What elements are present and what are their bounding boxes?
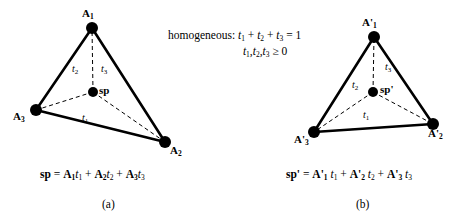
equation-b-vector-2: A'2 [350,168,365,180]
equation-a-vector-2: A2 [94,168,106,180]
constraint-inequality-symbol: ≥ [272,45,278,57]
equation-a-equals: = [54,168,61,180]
constraint-prefix: homogeneous: [168,29,235,41]
equation-b-vector-3: A'3 [387,168,402,180]
equation-a-plus-1: + [85,168,92,180]
parameter-label-t3-b: t3 [385,62,391,74]
dashed-line-sp-prime-to-a1-prime [373,37,374,92]
vertex-label-a2-prime: A'2 [428,128,443,141]
equation-b-scalar-2: t2 [368,168,375,180]
dashed-line-sp-to-a2 [93,92,165,142]
dashed-line-sp-to-a1 [92,28,93,92]
equation-a-lhs: sp [40,168,51,180]
panel-b-geometry [308,31,439,138]
equation-b-plus-2: + [378,168,385,180]
homogeneous-constraint: homogeneous: t1 + t2 + t3 = 1 t1,t2,t3 ≥… [168,28,301,60]
vertex-dot-a3 [30,104,42,116]
vertex-label-a1-prime: A'1 [362,17,377,30]
equation-b-vector-1: A'1 [312,168,327,180]
point-dot-sp-prime [368,87,378,97]
constraint-plus-1: + [248,29,255,41]
equation-a-vector-3: A3 [126,168,138,180]
equation-b-scalar-3: t3 [405,168,412,180]
constraint-term-2: t2 [257,29,264,41]
point-label-sp-prime: sp' [380,84,393,95]
parameter-label-t1-a: t1 [82,113,88,125]
vertex-label-a3: A3 [13,111,25,124]
equation-b-scalar-1: t1 [330,168,337,180]
vertex-dot-a1 [86,22,98,34]
equation-a-vector-1: A1 [63,168,75,180]
equation-b-lhs: sp' [286,168,300,180]
constraint-ineq-term-1: t1 [243,45,250,57]
dashed-line-sp-prime-to-a2-prime [373,92,433,124]
parameter-label-t1-b: t1 [363,110,369,122]
constraint-term-3: t3 [276,29,283,41]
vertex-dot-a1-prime [368,31,380,43]
equation-a-scalar-2: t2 [106,168,113,180]
equation-sp-prime: sp' = A'1 t1 + A'2 t2 + A'3 t3 [286,168,412,182]
point-label-sp: sp [99,85,109,96]
equation-a-scalar-3: t3 [138,168,145,180]
vertex-label-a2: A2 [170,145,182,158]
constraint-ineq-term-2: t2 [253,45,260,57]
panel-caption-b: (b) [356,198,369,210]
constraint-line-1: homogeneous: t1 + t2 + t3 = 1 [168,28,301,44]
constraint-ineq-term-3: t3 [263,45,270,57]
dashed-line-a3-prime-to-a2-prime [314,124,433,132]
parameter-label-t2-a: t2 [72,64,78,76]
equation-b-equals: = [303,168,310,180]
equation-a-plus-2: + [116,168,123,180]
parameter-label-t2-b: t2 [352,80,358,92]
constraint-line-2: t1,t2,t3 ≥ 0 [168,44,301,60]
constraint-inequality-value: 0 [282,45,288,57]
constraint-sum-value: 1 [296,29,302,41]
constraint-equals: = [286,29,293,41]
parameter-label-t3-a: t3 [101,64,107,76]
dashed-line-sp-to-a3 [36,92,93,110]
point-dot-sp [88,87,98,97]
figure-root: A1 A2 A3 sp t1 t2 t3 A'1 A'2 A'3 sp' t1 … [0,0,465,222]
constraint-plus-2: + [267,29,274,41]
equation-b-plus-1: + [340,168,347,180]
vertex-dot-a3-prime [308,126,320,138]
equation-sp: sp = A1t1 + A2t2 + A3t3 [40,168,145,182]
constraint-term-1: t1 [238,29,245,41]
panel-caption-a: (a) [102,198,115,210]
vertex-label-a1: A1 [82,8,94,21]
vertex-label-a3-prime: A'3 [294,134,309,147]
equation-a-scalar-1: t1 [75,168,82,180]
